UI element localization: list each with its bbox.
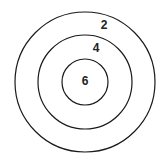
diagram-canvas: 2 4 6: [0, 0, 168, 168]
middle-ring-label: 4: [93, 41, 100, 55]
concentric-circles-diagram: 2 4 6: [0, 0, 168, 168]
outer-ring-label: 2: [101, 18, 108, 32]
inner-ring-label: 6: [82, 74, 89, 88]
